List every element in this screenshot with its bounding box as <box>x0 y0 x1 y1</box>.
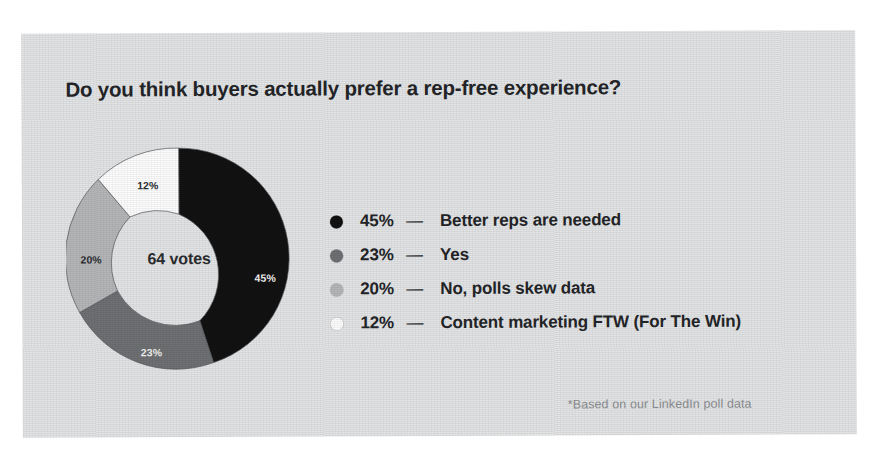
legend-row-yes[interactable]: 23% — Yes <box>330 236 830 272</box>
legend-dash-content-marketing: — <box>406 313 440 333</box>
legend-dash-yes: — <box>406 245 440 265</box>
page-title: Do you think buyers actually prefer a re… <box>65 75 621 101</box>
legend-swatch-icon-better-reps <box>330 215 343 228</box>
chart-legend: 45% — Better reps are needed 23% — Yes 2… <box>330 202 831 340</box>
legend-dash-no-polls-skew: — <box>406 279 440 299</box>
legend-row-content-marketing[interactable]: 12% — Content marketing FTW (For The Win… <box>330 304 830 340</box>
legend-label-no-polls-skew: No, polls skew data <box>440 278 595 299</box>
legend-percent-yes: 23% <box>360 245 406 265</box>
legend-label-better-reps: Better reps are needed <box>440 210 621 231</box>
donut-chart-svg: 45% 23% 20% 12% 64 votes <box>66 141 295 374</box>
poll-result-card: Do you think buyers actually prefer a re… <box>21 30 857 438</box>
legend-row-no-polls-skew[interactable]: 20% — No, polls skew data <box>330 270 830 306</box>
donut-chart: 45% 23% 20% 12% 64 votes <box>66 141 295 374</box>
screenshot-root: Do you think buyers actually prefer a re… <box>0 0 877 466</box>
legend-swatch-icon-content-marketing <box>330 317 343 330</box>
legend-label-yes: Yes <box>440 245 469 265</box>
donut-center-total: 64 votes <box>147 250 211 267</box>
legend-percent-better-reps: 45% <box>360 211 406 231</box>
legend-swatch-icon-no-polls-skew <box>330 283 343 296</box>
donut-label-12: 12% <box>137 179 159 191</box>
legend-percent-content-marketing: 12% <box>360 313 406 333</box>
legend-swatch-icon-yes <box>330 249 343 262</box>
donut-label-20: 20% <box>80 253 102 265</box>
donut-label-23: 23% <box>141 346 163 358</box>
donut-label-45: 45% <box>254 272 276 284</box>
source-footnote: *Based on our LinkedIn poll data <box>568 397 752 412</box>
legend-label-content-marketing: Content marketing FTW (For The Win) <box>440 312 741 333</box>
legend-dash-better-reps: — <box>406 211 440 231</box>
legend-row-better-reps[interactable]: 45% — Better reps are needed <box>330 202 830 238</box>
legend-percent-no-polls-skew: 20% <box>360 279 406 299</box>
card-inner: Do you think buyers actually prefer a re… <box>21 30 857 438</box>
